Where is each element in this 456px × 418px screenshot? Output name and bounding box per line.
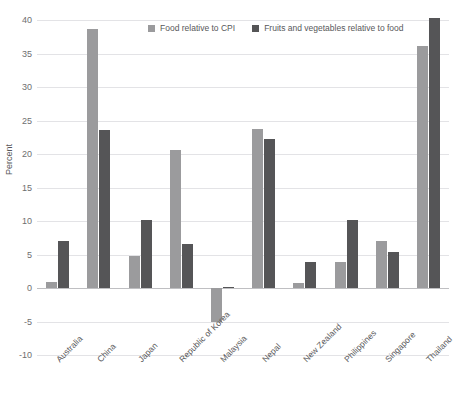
bar <box>429 18 440 288</box>
bar <box>87 29 98 288</box>
x-axis-labels: AustraliaChinaJapanRepublic of KoreaMala… <box>37 357 449 418</box>
bar <box>223 287 234 288</box>
y-tick-label: 0 <box>27 283 32 293</box>
bar <box>46 282 57 288</box>
legend-swatch-icon <box>148 25 155 32</box>
y-tick-label: 5 <box>27 250 32 260</box>
y-tick-label: 20 <box>22 149 32 159</box>
legend-item: Food relative to CPI <box>148 23 235 33</box>
bar <box>347 220 358 288</box>
bar <box>170 150 181 288</box>
y-tick-label: -5 <box>24 317 32 327</box>
plot-area: 4035302520151050-5-10 <box>37 20 449 355</box>
bar <box>99 130 110 288</box>
bar <box>376 241 387 288</box>
chart-legend: Food relative to CPIFruits and vegetable… <box>148 23 404 33</box>
bar <box>252 129 263 288</box>
legend-item: Fruits and vegetables relative to food <box>252 23 403 33</box>
legend-label: Fruits and vegetables relative to food <box>264 23 403 33</box>
legend-swatch-icon <box>252 25 259 32</box>
bar <box>335 262 346 288</box>
legend-label: Food relative to CPI <box>160 23 235 33</box>
y-tick-label: -10 <box>19 350 32 360</box>
y-axis-title: Percent <box>4 144 14 175</box>
bar-chart: Percent 4035302520151050-5-10 Food relat… <box>0 0 456 418</box>
y-tick-label: 35 <box>22 49 32 59</box>
bar <box>182 244 193 288</box>
bar <box>58 241 69 288</box>
chart-title-remnant <box>0 0 456 7</box>
bar <box>141 220 152 288</box>
y-tick-label: 40 <box>22 15 32 25</box>
bar <box>388 252 399 288</box>
bar <box>305 262 316 288</box>
bar <box>293 283 304 288</box>
bar <box>129 256 140 288</box>
y-tick-label: 30 <box>22 82 32 92</box>
bar <box>417 46 428 288</box>
y-tick-label: 15 <box>22 183 32 193</box>
y-tick-label: 10 <box>22 216 32 226</box>
bar <box>264 139 275 288</box>
bars-layer <box>37 20 449 355</box>
y-tick-label: 25 <box>22 116 32 126</box>
